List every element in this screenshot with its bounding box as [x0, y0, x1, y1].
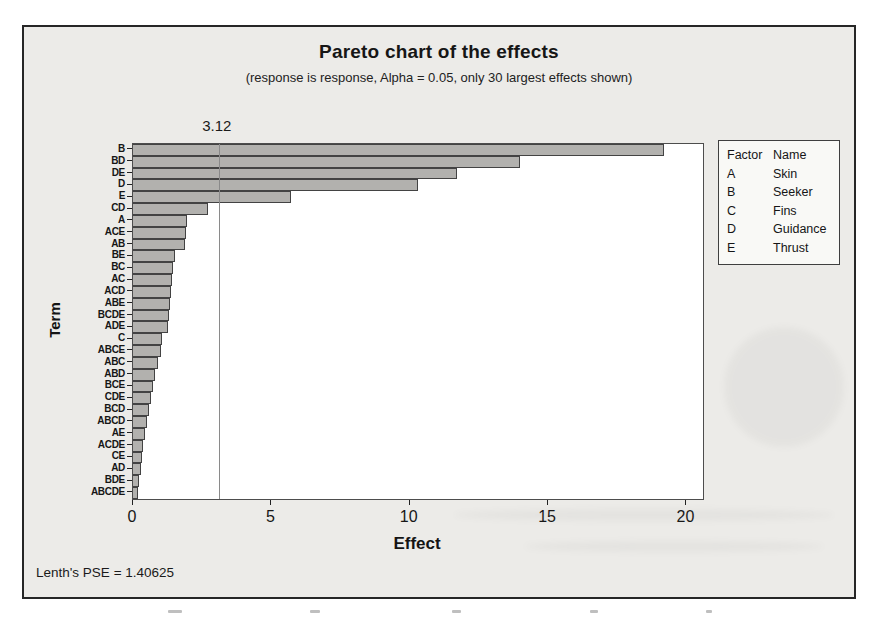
lenths-pse-footnote: Lenth's PSE = 1.40625: [36, 565, 174, 580]
term-label: BCDE: [98, 310, 125, 320]
effect-bar-ABC: [133, 357, 158, 369]
term-label: AB: [111, 239, 125, 249]
term-label: ACE: [105, 227, 125, 237]
y-tick-label-ACE: ACE: [24, 226, 132, 238]
y-tick-label-ABCDE: ABCDE: [24, 486, 132, 498]
y-tick-label-BC: BC: [24, 261, 132, 273]
term-label: C: [118, 333, 125, 343]
x-tick-label-10: 10: [400, 508, 418, 526]
x-tick-mark-20: [685, 500, 686, 505]
legend-factor-letter: A: [727, 165, 773, 184]
term-label: E: [119, 191, 125, 201]
effect-bar-AC: [133, 274, 172, 286]
term-label: ABCE: [98, 345, 125, 355]
term-label: DE: [112, 168, 125, 178]
y-tick-label-BCE: BCE: [24, 380, 132, 392]
scan-bleedthrough-artifact: [724, 327, 844, 447]
y-tick-label-BCDE: BCDE: [24, 309, 132, 321]
y-tick-label-BE: BE: [24, 249, 132, 261]
effect-bar-E: [133, 191, 291, 203]
y-tick-label-AD: AD: [24, 462, 132, 474]
x-tick-label-20: 20: [676, 508, 694, 526]
term-label: CE: [112, 451, 125, 461]
effect-bar-ABE: [133, 298, 170, 310]
y-tick-label-D: D: [24, 178, 132, 190]
term-label: BD: [111, 156, 125, 166]
effect-bar-ABCD: [133, 416, 147, 428]
y-tick-label-ACDE: ACDE: [24, 439, 132, 451]
legend-factor-letter: E: [727, 239, 773, 258]
term-label: BDE: [105, 475, 125, 485]
effect-bar-D: [133, 179, 418, 191]
x-tick-mark-0: [132, 500, 133, 505]
y-tick-label-C: C: [24, 332, 132, 344]
term-label: AE: [112, 428, 125, 438]
term-label: CD: [111, 203, 125, 213]
legend-factor-name: Seeker: [773, 183, 839, 202]
term-label: D: [118, 179, 125, 189]
effect-bar-B: [133, 144, 664, 156]
term-label: AC: [111, 274, 125, 284]
effect-bar-A: [133, 215, 187, 227]
term-label: ABD: [104, 369, 125, 379]
y-tick-label-AC: AC: [24, 273, 132, 285]
y-tick-label-CD: CD: [24, 202, 132, 214]
reference-line-label: 3.12: [202, 117, 231, 134]
legend-row-A: ASkin: [727, 165, 839, 184]
y-axis-tick-labels: BBDDEDECDAACEABBEBCACACDABEBCDEADECABCEA…: [24, 143, 132, 498]
term-label: B: [118, 144, 125, 154]
y-tick-label-CE: CE: [24, 451, 132, 463]
x-tick-label-15: 15: [538, 508, 556, 526]
effect-bar-C: [133, 333, 162, 345]
legend-rows: ASkinBSeekerCFinsDGuidanceEThrust: [727, 165, 839, 258]
chart-title: Pareto chart of the effects: [24, 41, 854, 63]
plot-area: [132, 143, 704, 500]
x-tick-label-0: 0: [128, 508, 137, 526]
legend-header-name: Name: [773, 146, 839, 165]
term-label: BCD: [104, 404, 125, 414]
term-label: BC: [111, 262, 125, 272]
x-axis-title: Effect: [132, 534, 702, 554]
y-tick-label-E: E: [24, 190, 132, 202]
term-label: BCE: [105, 380, 125, 390]
legend-row-B: BSeeker: [727, 183, 839, 202]
y-tick-label-ADE: ADE: [24, 320, 132, 332]
effect-bar-ACE: [133, 227, 186, 239]
effect-bar-AB: [133, 239, 185, 251]
legend-factor-letter: B: [727, 183, 773, 202]
y-tick-label-ABD: ABD: [24, 368, 132, 380]
effect-bar-DE: [133, 168, 457, 180]
term-label: A: [118, 215, 125, 225]
y-tick-label-A: A: [24, 214, 132, 226]
effect-bar-AE: [133, 428, 145, 440]
legend-factor-letter: D: [727, 220, 773, 239]
y-tick-label-ABC: ABC: [24, 356, 132, 368]
effect-bar-ABD: [133, 369, 155, 381]
effect-bar-BE: [133, 250, 175, 262]
effect-bar-ACDE: [133, 440, 143, 452]
y-tick-label-DE: DE: [24, 167, 132, 179]
effect-bar-BC: [133, 262, 173, 274]
y-tick-label-ABCE: ABCE: [24, 344, 132, 356]
y-tick-label-ABCD: ABCD: [24, 415, 132, 427]
y-tick-label-CDE: CDE: [24, 391, 132, 403]
x-axis: 05101520: [132, 500, 702, 532]
term-label: ABE: [105, 298, 125, 308]
legend-row-D: DGuidance: [727, 220, 839, 239]
scanned-page: { "chart_data": { "type": "bar", "orient…: [0, 0, 879, 624]
legend-header-row: Factor Name: [727, 146, 839, 165]
effect-bar-ADE: [133, 321, 168, 333]
effect-bar-CDE: [133, 392, 151, 404]
legend-factor-name: Fins: [773, 202, 839, 221]
legend-row-C: CFins: [727, 202, 839, 221]
legend-factor-name: Thrust: [773, 239, 839, 258]
effect-bar-CE: [133, 452, 142, 464]
x-tick-mark-10: [409, 500, 410, 505]
chart-subtitle: (response is response, Alpha = 0.05, onl…: [24, 70, 854, 85]
x-tick-mark-15: [547, 500, 548, 505]
y-tick-label-ACD: ACD: [24, 285, 132, 297]
legend-row-E: EThrust: [727, 239, 839, 258]
effect-bar-CD: [133, 203, 208, 215]
effect-bar-BCDE: [133, 310, 169, 322]
term-label: ACDE: [98, 440, 125, 450]
